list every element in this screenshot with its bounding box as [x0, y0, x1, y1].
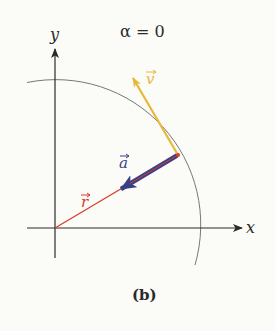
- y-axis-label: y: [49, 25, 60, 44]
- svg-text:v: v: [146, 70, 155, 88]
- svg-text:a: a: [119, 154, 128, 172]
- acceleration-inner-line: [130, 156, 177, 184]
- label-v: v: [146, 70, 156, 88]
- figure-caption: (b): [132, 286, 157, 304]
- svg-text:r: r: [81, 193, 89, 211]
- circular-path-arc: [27, 80, 201, 265]
- label-a: a: [119, 154, 129, 172]
- title-alpha: α = 0: [120, 22, 165, 41]
- x-axis-label: x: [246, 218, 255, 237]
- motion-diagram: y x α = 0 v a r (b): [0, 0, 275, 331]
- particle-point: [176, 153, 180, 157]
- velocity-vector-v: [133, 78, 178, 155]
- diagram: y x α = 0 v a r (b): [0, 0, 275, 331]
